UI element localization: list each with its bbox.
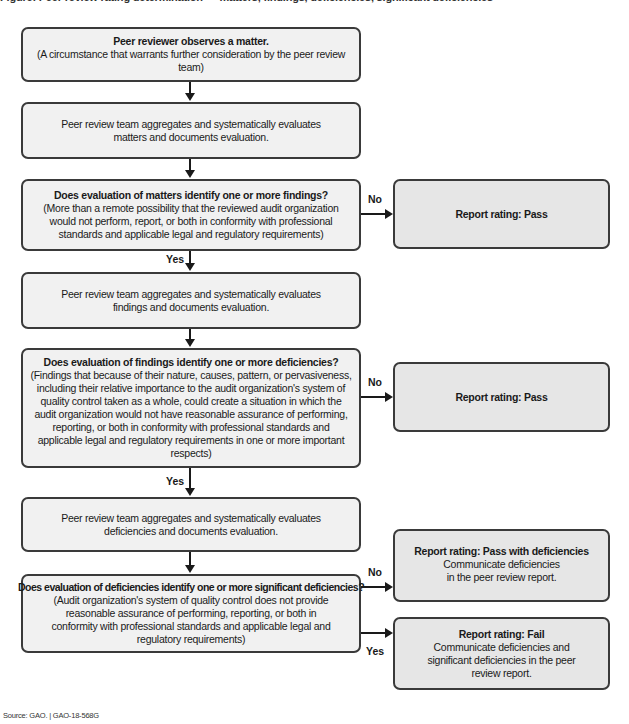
deficiencies-question-body: (Findings that because of their nature, … — [29, 369, 353, 460]
no-label-1: No — [368, 193, 382, 205]
arrow-right-icon — [385, 209, 393, 219]
rating-pass-box-2: Report rating: Pass — [393, 362, 610, 432]
no-connector-2 — [361, 396, 386, 398]
yes-label-3: Yes — [366, 645, 384, 657]
rating-pass-with-deficiencies-line2: in the peer review report. — [447, 571, 557, 584]
rating-pass-with-deficiencies-title: Report rating: Pass with deficiencies — [414, 545, 589, 558]
evaluate-matters-body: Peer review team aggregates and systemat… — [29, 118, 353, 144]
source-note: Source: GAO. | GAO-18-568G — [3, 711, 99, 720]
arrow-down-icon — [185, 93, 195, 101]
rating-fail-body: Communicate deficiencies and significant… — [401, 641, 602, 680]
yes-label-2: Yes — [166, 475, 184, 487]
no-label-3: No — [368, 566, 382, 578]
no-connector-3 — [361, 586, 386, 588]
significant-deficiencies-question-title: Does evaluation of deficiencies identify… — [18, 581, 364, 594]
rating-pass-with-deficiencies-line1: Communicate deficiencies — [443, 558, 560, 571]
observe-matter-title: Peer reviewer observes a matter. — [113, 35, 268, 48]
arrow-right-icon — [385, 582, 393, 592]
rating-pass-title-1: Report rating: Pass — [455, 208, 547, 221]
cutoff-heading-text: Figure: Peer review rating determination… — [0, 0, 629, 5]
arrow-right-icon — [385, 628, 393, 638]
deficiencies-question-title: Does evaluation of findings identify one… — [44, 356, 339, 369]
evaluate-deficiencies-box: Peer review team aggregates and systemat… — [21, 497, 361, 552]
rating-pass-box-1: Report rating: Pass — [393, 179, 610, 249]
connector-5 — [189, 468, 191, 489]
rating-pass-with-deficiencies-box: Report rating: Pass with deficiencies Co… — [393, 529, 610, 602]
evaluate-deficiencies-body: Peer review team aggregates and systemat… — [29, 512, 353, 538]
arrow-down-icon — [185, 565, 195, 573]
no-connector-1 — [361, 213, 386, 215]
arrow-down-icon — [185, 339, 195, 347]
findings-question-title: Does evaluation of matters identify one … — [54, 189, 328, 202]
significant-deficiencies-question-box: Does evaluation of deficiencies identify… — [21, 574, 361, 653]
evaluate-findings-box: Peer review team aggregates and systemat… — [21, 272, 361, 329]
rating-fail-box: Report rating: Fail Communicate deficien… — [393, 617, 610, 690]
arrow-down-icon — [185, 488, 195, 496]
significant-deficiencies-question-body: (Audit organization's system of quality … — [29, 594, 353, 646]
evaluate-matters-box: Peer review team aggregates and systemat… — [21, 102, 361, 159]
yes-label-1: Yes — [166, 253, 184, 265]
arrow-down-icon — [185, 263, 195, 271]
findings-question-body: (More than a remote possibility that the… — [29, 202, 353, 241]
deficiencies-question-box: Does evaluation of findings identify one… — [21, 348, 361, 468]
arrow-right-icon — [385, 392, 393, 402]
connector-6 — [189, 552, 191, 566]
observe-matter-box: Peer reviewer observes a matter. (A circ… — [21, 27, 361, 82]
arrow-down-icon — [185, 170, 195, 178]
yes-connector-fail — [361, 632, 386, 634]
rating-fail-title: Report rating: Fail — [459, 628, 545, 641]
rating-pass-title-2: Report rating: Pass — [455, 391, 547, 404]
no-label-2: No — [368, 376, 382, 388]
evaluate-findings-body: Peer review team aggregates and systemat… — [29, 288, 353, 314]
observe-matter-body: (A circumstance that warrants further co… — [29, 48, 353, 74]
findings-question-box: Does evaluation of matters identify one … — [21, 179, 361, 251]
